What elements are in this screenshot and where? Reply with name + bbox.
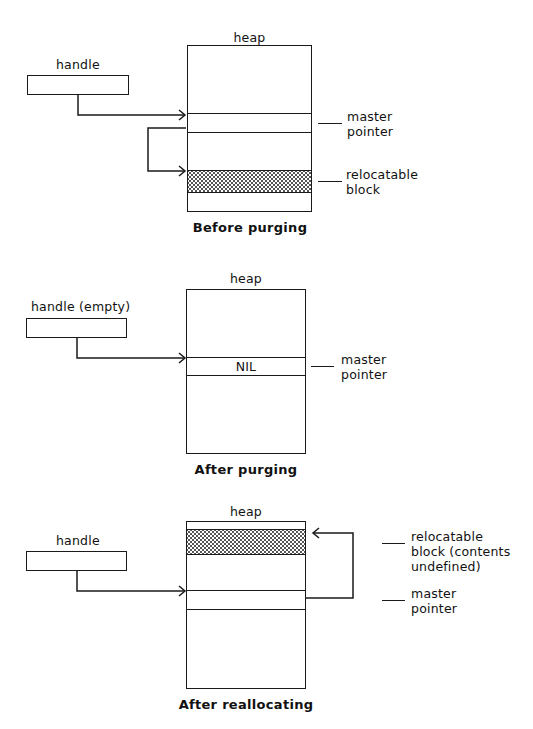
handle-to-master-pointer-arrow	[77, 571, 185, 591]
connector-arrows	[0, 0, 533, 729]
handle-to-master-pointer-arrow	[77, 338, 185, 358]
master-pointer-to-block-arrow	[148, 128, 186, 171]
handle-to-master-pointer-arrow	[78, 95, 185, 115]
master-pointer-to-block-arrow	[306, 533, 353, 598]
